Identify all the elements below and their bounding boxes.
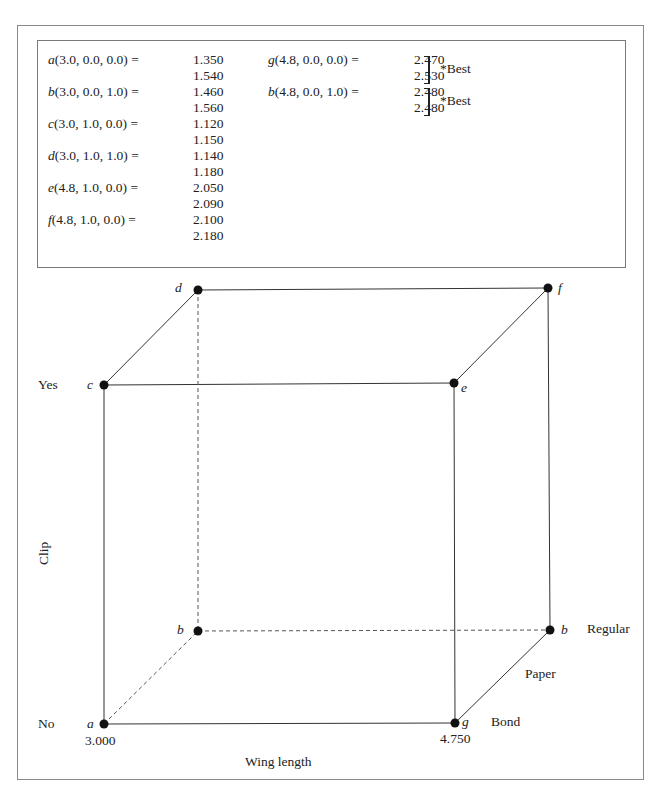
vertex-c-dot <box>100 381 109 390</box>
factorial-cube-diagram <box>0 0 667 805</box>
clip-axis-label: Clip <box>36 542 52 565</box>
vertex-label-f: f <box>558 280 562 296</box>
vertex-label-a: a <box>87 716 94 732</box>
vertex-a-dot <box>100 720 109 729</box>
vertex-h-dot <box>546 626 555 635</box>
vertex-label-c: c <box>87 377 93 393</box>
hidden-edge-a-b <box>104 631 198 724</box>
paper-axis-label: Paper <box>525 666 556 682</box>
vertex-e-dot <box>450 379 459 388</box>
vertex-label-e: e <box>461 380 467 396</box>
vertex-b-dot <box>194 627 203 636</box>
edge-c-d <box>104 290 198 385</box>
vertex-label-g: g <box>462 714 469 730</box>
wing-length-min-label: 3.000 <box>85 733 115 749</box>
edge-e-g <box>454 383 455 723</box>
vertex-label-h: b <box>561 622 568 638</box>
vertex-f-dot <box>544 284 553 293</box>
clip-no-label: No <box>38 716 55 732</box>
paper-regular-label: Regular <box>587 621 630 637</box>
wing-length-max-label: 4.750 <box>440 731 470 747</box>
vertex-label-b: b <box>177 622 184 638</box>
hidden-edge-b-h <box>198 630 550 631</box>
vertex-g-dot <box>451 719 460 728</box>
vertex-d-dot <box>194 286 203 295</box>
edge-e-f <box>454 288 548 383</box>
clip-yes-label: Yes <box>38 377 58 393</box>
paper-bond-label: Bond <box>491 714 520 730</box>
vertex-label-d: d <box>175 280 182 296</box>
edge-d-f <box>198 288 548 290</box>
edge-a-g <box>104 723 455 724</box>
wing-length-axis-label: Wing length <box>245 754 312 770</box>
edge-f-h <box>548 288 550 630</box>
edge-c-e <box>104 383 454 385</box>
